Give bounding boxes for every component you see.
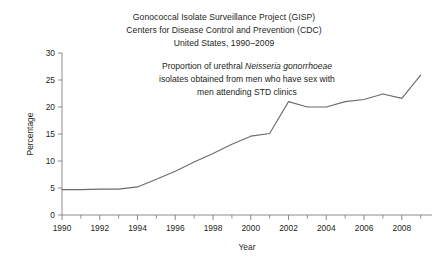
x-axis-tick-label: 1992 xyxy=(90,223,109,233)
y-axis: 051015202530 xyxy=(46,48,62,220)
x-axis-tick-label: 2002 xyxy=(279,223,298,233)
y-axis-tick-label: 10 xyxy=(46,156,56,166)
x-axis-tick-label: 2006 xyxy=(355,223,374,233)
plot-area: 051015202530 199019921994199619982000200… xyxy=(0,0,448,265)
y-axis-tick-label: 20 xyxy=(46,102,56,112)
x-axis: 1990199219941996199820002002200420062008 xyxy=(53,215,432,233)
x-axis-tick-label: 2008 xyxy=(392,223,411,233)
x-axis-tick-label: 2004 xyxy=(317,223,336,233)
series-line xyxy=(62,75,421,189)
y-axis-tick-label: 15 xyxy=(46,129,56,139)
data-series xyxy=(62,75,421,189)
x-axis-tick-label: 1998 xyxy=(204,223,223,233)
y-axis-title: Percentage xyxy=(25,112,35,155)
y-axis-tick-label: 5 xyxy=(50,183,55,193)
x-axis-tick-label: 2000 xyxy=(241,223,260,233)
x-axis-title: Year xyxy=(239,242,256,252)
y-axis-tick-label: 25 xyxy=(46,75,56,85)
y-axis-tick-label: 30 xyxy=(46,48,56,58)
x-axis-tick-label: 1990 xyxy=(53,223,72,233)
chart-figure: Gonococcal Isolate Surveillance Project … xyxy=(0,0,448,265)
x-axis-tick-label: 1994 xyxy=(128,223,147,233)
x-axis-tick-label: 1996 xyxy=(166,223,185,233)
y-axis-tick-label: 0 xyxy=(50,210,55,220)
